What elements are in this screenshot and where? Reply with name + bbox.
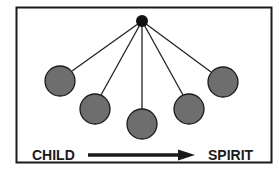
node-circle-1 (45, 66, 75, 96)
child-to-spirit-diagram: CHILD SPIRIT (0, 0, 279, 177)
label-spirit: SPIRIT (208, 147, 254, 163)
node-circle-5 (208, 67, 238, 97)
label-child: CHILD (32, 147, 75, 163)
hub-dot (136, 15, 148, 27)
node-circle-3 (127, 109, 157, 139)
node-circle-2 (80, 94, 110, 124)
node-circle-4 (174, 94, 204, 124)
